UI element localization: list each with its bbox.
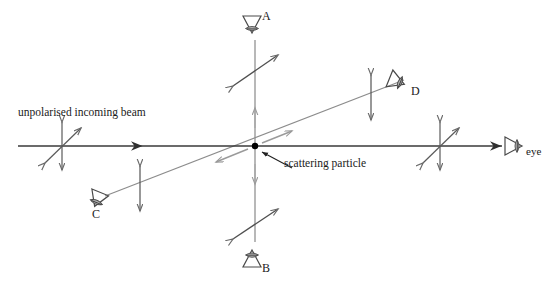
observer-a-label: A: [262, 9, 271, 24]
eye-icon-d: [386, 70, 408, 93]
incoming-beam-label: unpolarised incoming beam: [18, 106, 146, 118]
eye-icon-right: [505, 137, 522, 155]
axis-group: [18, 40, 502, 242]
observer-eye-label: eye: [526, 145, 541, 157]
observer-b-label: B: [262, 261, 270, 276]
eye-icon-b: [243, 250, 261, 267]
dot-icon: [252, 143, 258, 149]
eye-icon-a: [243, 16, 261, 33]
diagram-canvas: [0, 0, 545, 284]
observer-c-label: C: [92, 207, 100, 222]
observer-d-label: D: [411, 84, 420, 99]
scattering-diagram: unpolarised incoming beam scattering par…: [0, 0, 545, 284]
scattering-particle-label: scattering particle: [284, 157, 366, 169]
